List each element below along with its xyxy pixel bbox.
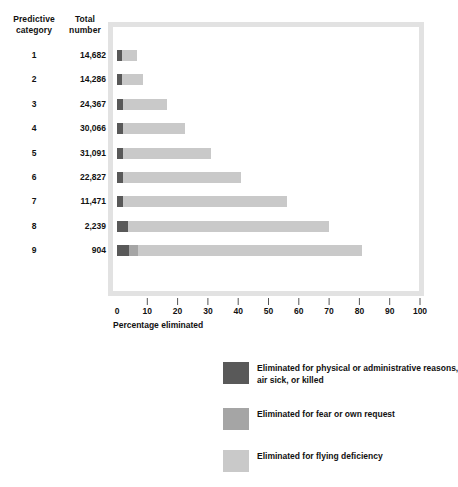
x-axis-tick-label: 70 [316, 306, 342, 316]
legend-swatch-light [223, 450, 249, 472]
bar-row [117, 148, 211, 159]
bar-segment [123, 99, 167, 110]
row-total-number: 31,091 [58, 148, 106, 159]
legend-label: Eliminated for physical or administrativ… [257, 362, 458, 386]
column-header-total-number: Totalnumber [62, 14, 108, 35]
row-category-label: 8 [6, 221, 62, 232]
x-axis-tick-label: 10 [134, 306, 160, 316]
row-total-number: 30,066 [58, 123, 106, 134]
x-axis-tick-label: 20 [165, 306, 191, 316]
bar-row [117, 123, 185, 134]
chart-page: Predictivecategory Totalnumber 114,68221… [0, 0, 458, 487]
bar-row [117, 99, 167, 110]
bar-row [117, 74, 143, 85]
row-total-number: 904 [58, 245, 106, 256]
bar-row [117, 245, 362, 256]
bar-segment [117, 221, 128, 232]
bar-segment [123, 123, 185, 134]
bar-segment [129, 245, 138, 256]
bar-segment [138, 245, 362, 256]
row-category-label: 5 [6, 148, 62, 159]
row-category-label: 1 [6, 50, 62, 61]
x-axis-tick-label: 50 [256, 306, 282, 316]
row-category-label: 2 [6, 74, 62, 85]
legend-label: Eliminated for flying deficiency [257, 450, 458, 462]
x-axis-tick-label: 60 [286, 306, 312, 316]
row-total-number: 11,471 [58, 196, 106, 207]
legend-swatch-mid [223, 408, 249, 430]
row-category-label: 9 [6, 245, 62, 256]
x-axis-tick-label: 90 [377, 306, 403, 316]
bar-segment [123, 196, 287, 207]
bar-segment [117, 245, 129, 256]
legend-swatch-dark [223, 362, 249, 384]
x-axis-tick-label: 0 [104, 306, 130, 316]
column-header-predictive-category: Predictivecategory [6, 14, 62, 35]
x-axis-tick-label: 40 [225, 306, 251, 316]
x-axis-tick-label: 80 [346, 306, 372, 316]
bar-row [117, 196, 287, 207]
bar-segment [128, 221, 329, 232]
bar-row [117, 221, 329, 232]
x-axis-tick-label: 100 [407, 306, 433, 316]
bar-segment [122, 50, 137, 61]
legend-label: Eliminated for fear or own request [257, 408, 458, 420]
bar-segment [122, 74, 143, 85]
bar-segment [123, 148, 211, 159]
bar-row [117, 50, 137, 61]
row-category-label: 4 [6, 123, 62, 134]
row-total-number: 14,682 [58, 50, 106, 61]
bar-row [117, 172, 241, 183]
row-total-number: 2,239 [58, 221, 106, 232]
bar-segment [123, 172, 241, 183]
row-category-label: 6 [6, 172, 62, 183]
row-total-number: 14,286 [58, 74, 106, 85]
row-category-label: 7 [6, 196, 62, 207]
row-total-number: 22,827 [58, 172, 106, 183]
row-total-number: 24,367 [58, 99, 106, 110]
x-axis-title: Percentage eliminated [113, 320, 203, 330]
row-category-label: 3 [6, 99, 62, 110]
x-axis-tick-label: 30 [195, 306, 221, 316]
